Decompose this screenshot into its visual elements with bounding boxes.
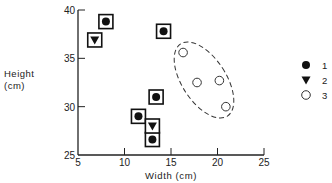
scatter-chart: 25303540510152025Width (cm)Height(cm) 12… [0,0,332,183]
x-tick-label: 5 [75,157,81,168]
data-points [88,15,230,147]
y-tick-label: 25 [64,150,76,161]
data-point-series-3 [222,102,231,111]
x-tick-label: 15 [165,157,177,168]
legend-label: 1 [322,60,327,71]
filled-circle-marker [102,18,110,26]
legend-marker [302,77,311,85]
legend-marker [302,61,310,69]
data-point-series-1 [149,90,163,104]
legend-item-2: 2 [302,75,328,86]
y-axis-label: (cm) [4,80,25,91]
axes: 25303540510152025Width (cm)Height(cm) [4,5,270,181]
data-point-series-3 [193,78,202,87]
data-point-series-1 [99,15,113,29]
data-point-series-1 [157,24,171,38]
y-tick-label: 30 [64,102,76,113]
open-circle-marker [179,48,188,57]
data-point-series-3 [179,48,188,57]
y-tick-label: 40 [64,5,76,16]
data-point-series-1 [131,109,145,123]
cluster-ellipse [162,32,246,128]
open-circle-marker [193,78,202,87]
legend-marker [302,91,311,100]
filled-circle-marker [160,27,168,35]
open-circle-marker [222,102,231,111]
data-point-series-2 [88,33,102,47]
data-point-series-2 [145,119,159,133]
filled-circle-marker [148,136,156,144]
data-point-series-3 [215,76,224,85]
x-tick-label: 10 [119,157,131,168]
filled-circle-marker [152,93,160,101]
x-axis-label: Width (cm) [145,170,197,181]
x-tick-label: 20 [212,157,224,168]
y-axis-label: Height [4,68,34,79]
data-point-series-1 [145,133,159,147]
filled-circle-marker [134,112,142,120]
legend-label: 2 [322,75,327,86]
x-tick-label: 25 [258,157,270,168]
y-tick-label: 35 [64,53,76,64]
dashed-ellipse [162,32,246,128]
legend-item-1: 1 [302,60,327,71]
open-circle-marker [215,76,224,85]
legend-label: 3 [322,90,327,101]
legend: 123 [302,60,328,101]
legend-item-3: 3 [302,90,328,101]
